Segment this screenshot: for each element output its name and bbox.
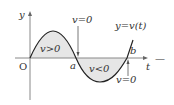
v-zero-at-a-label: v=0	[72, 14, 93, 25]
velocity-graph: y O t a b v>0 v<0 v=0 v=0 y=v(t) —	[0, 0, 174, 105]
t-axis-label: t	[146, 61, 151, 72]
y-axis-label: y	[18, 9, 25, 20]
point-b-label: b	[130, 45, 136, 56]
y-axis-arrow-icon	[28, 11, 32, 16]
v-zero-a-arrow-head-icon	[77, 52, 80, 57]
positive-region-label: v>0	[40, 43, 61, 54]
trailing-dash: —	[155, 53, 165, 64]
v-zero-b-arrow-head-icon	[127, 59, 130, 64]
origin-label: O	[19, 61, 27, 72]
point-a-label: a	[70, 60, 76, 71]
curve-equation-label: y=v(t)	[114, 20, 147, 31]
v-zero-at-b-label: v=0	[116, 74, 137, 85]
t-axis-arrow-icon	[143, 56, 148, 60]
negative-region-label: v<0	[89, 63, 110, 74]
